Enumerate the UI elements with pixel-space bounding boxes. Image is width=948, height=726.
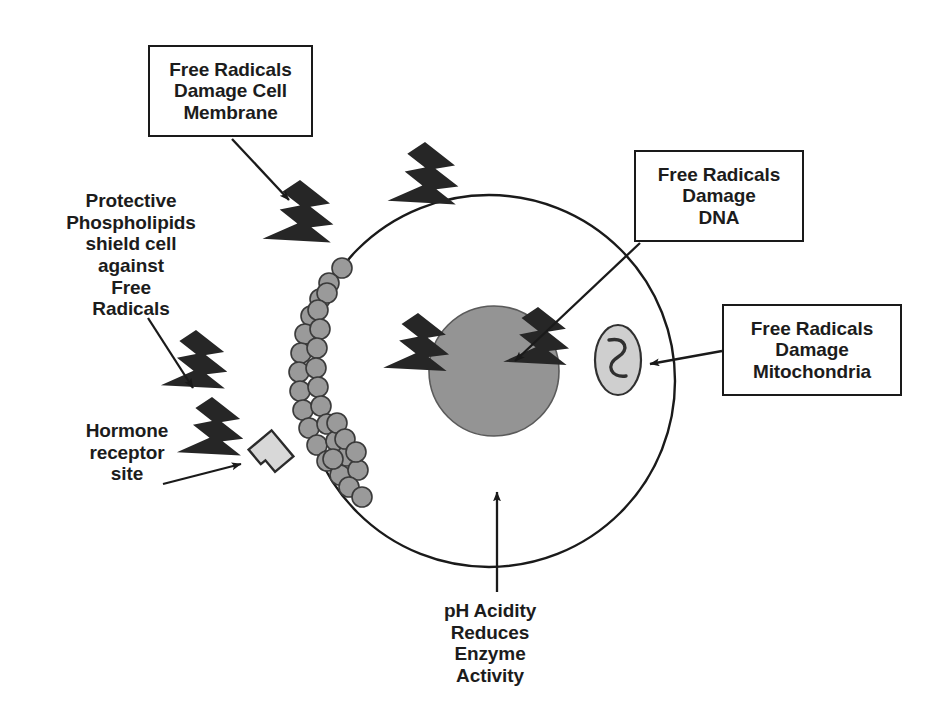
label-line: pH Acidity [395, 600, 585, 622]
callout-line: Free Radicals [751, 318, 873, 339]
label-line: Radicals [36, 298, 226, 320]
label-line: receptor [52, 442, 202, 464]
callout-free-radicals-damage-dna[interactable]: Free Radicals Damage DNA [634, 150, 804, 242]
callout-line: Damage Cell [174, 80, 287, 101]
arrow-phospholipids-label [148, 318, 193, 388]
callout-free-radicals-damage-mitochondria[interactable]: Free Radicals Damage Mitochondria [722, 304, 902, 396]
callout-line: Damage [775, 339, 848, 360]
lightning-bolt-icon [252, 176, 349, 273]
diagram-canvas: Free Radicals Damage Cell Membrane Free … [0, 0, 948, 726]
label-hormone-receptor-site: Hormone receptor site [52, 420, 202, 485]
hormone-receptor-site [249, 430, 294, 475]
label-line: site [52, 463, 202, 485]
label-line: against [36, 255, 226, 277]
label-line: Hormone [52, 420, 202, 442]
lightning-bolt-icon [151, 326, 242, 417]
mitochondrion [595, 325, 641, 395]
callout-line: Damage [682, 185, 755, 206]
label-line: Enzyme [395, 643, 585, 665]
label-line: Activity [395, 665, 585, 687]
label-line: Phospholipids [36, 212, 226, 234]
label-line: Reduces [395, 622, 585, 644]
label-line: shield cell [36, 233, 226, 255]
callout-line: DNA [699, 207, 740, 228]
callout-line: Membrane [183, 102, 277, 123]
callout-line: Mitochondria [753, 361, 871, 382]
callout-line: Free Radicals [658, 164, 780, 185]
arrow-membrane-callout [232, 139, 289, 200]
label-protective-phospholipids: Protective Phospholipids shield cell aga… [36, 190, 226, 320]
callout-line: Free Radicals [169, 59, 291, 80]
callout-free-radicals-damage-cell-membrane[interactable]: Free Radicals Damage Cell Membrane [148, 45, 313, 137]
label-line: Protective [36, 190, 226, 212]
label-ph-acidity: pH Acidity Reduces Enzyme Activity [395, 600, 585, 687]
label-line: Free [36, 277, 226, 299]
